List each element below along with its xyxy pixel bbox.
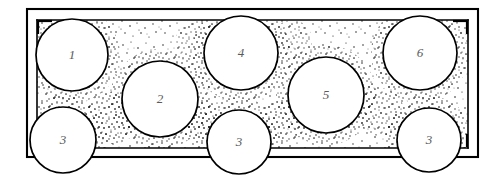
circle-5-label: 5 — [323, 87, 330, 102]
circle-1-label: 1 — [69, 47, 76, 62]
circle-3-right-label: 3 — [425, 132, 433, 147]
circle-3-middle-label: 3 — [235, 134, 243, 149]
circle-4-label: 4 — [238, 45, 245, 60]
circle-2-label: 2 — [157, 91, 164, 106]
circle-6-label: 6 — [417, 45, 424, 60]
circle-3-left-label: 3 — [59, 132, 67, 147]
figure-canvas: 1 2 3 4 3 5 6 3 — [0, 0, 492, 183]
technical-drawing-figure: 1 2 3 4 3 5 6 3 — [0, 0, 492, 183]
